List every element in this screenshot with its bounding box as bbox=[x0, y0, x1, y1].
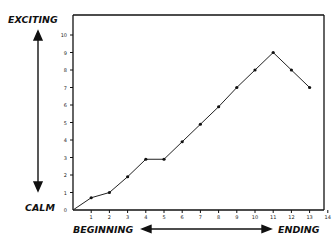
x-tick-label: 8 bbox=[217, 214, 220, 220]
y-tick-label: 8 bbox=[64, 67, 67, 73]
data-point bbox=[290, 68, 293, 71]
data-point bbox=[90, 196, 93, 199]
x-tick-label: 2 bbox=[108, 214, 111, 220]
x-tick-label: 5 bbox=[162, 214, 165, 220]
data-point bbox=[308, 86, 311, 89]
y-tick-label: 1 bbox=[64, 190, 67, 196]
x-tick-label: 1 bbox=[90, 214, 93, 220]
tension-line bbox=[73, 53, 310, 211]
data-point bbox=[144, 158, 147, 161]
y-tick-label: 3 bbox=[64, 155, 67, 161]
data-point bbox=[199, 123, 202, 126]
y-tick-label: 5 bbox=[64, 120, 67, 126]
x-tick-label: 4 bbox=[144, 214, 147, 220]
label-calm: CALM bbox=[25, 202, 55, 213]
data-point bbox=[126, 175, 129, 178]
horizontal-double-arrow-icon bbox=[142, 226, 271, 233]
data-point bbox=[235, 86, 238, 89]
data-point bbox=[217, 105, 220, 108]
vertical-double-arrow-icon bbox=[34, 31, 42, 191]
y-tick-label: 10 bbox=[61, 32, 67, 38]
label-ending: ENDING bbox=[278, 224, 320, 235]
y-tick-label: 9 bbox=[64, 50, 67, 56]
x-tick-label: 3 bbox=[126, 214, 129, 220]
y-tick-label: 7 bbox=[64, 85, 67, 91]
y-tick-label: 6 bbox=[64, 102, 67, 108]
x-tick-label: 9 bbox=[235, 214, 238, 220]
y-axis-ticks: 012345678910 bbox=[61, 32, 73, 213]
tension-curve-chart: 012345678910 1234567891011121314 EXCITIN… bbox=[0, 0, 335, 243]
x-tick-label: 7 bbox=[199, 214, 202, 220]
data-point bbox=[108, 191, 111, 194]
y-tick-label: 0 bbox=[64, 207, 67, 213]
plot-frame bbox=[73, 15, 324, 210]
label-beginning: BEGINNING bbox=[73, 224, 133, 235]
x-axis-ticks: 1234567891011121314 bbox=[90, 210, 331, 220]
x-tick-label: 10 bbox=[252, 214, 258, 220]
data-point bbox=[181, 140, 184, 143]
data-points bbox=[90, 51, 312, 199]
y-tick-label: 2 bbox=[64, 172, 67, 178]
data-point bbox=[253, 68, 256, 71]
x-tick-label: 13 bbox=[306, 214, 312, 220]
x-tick-label: 11 bbox=[270, 214, 276, 220]
x-tick-label: 12 bbox=[288, 214, 294, 220]
data-point bbox=[272, 51, 275, 54]
x-tick-label: 6 bbox=[181, 214, 184, 220]
data-point bbox=[162, 158, 165, 161]
y-tick-label: 4 bbox=[64, 137, 67, 143]
x-tick-label: 14 bbox=[325, 214, 331, 220]
label-exciting: EXCITING bbox=[8, 14, 58, 25]
